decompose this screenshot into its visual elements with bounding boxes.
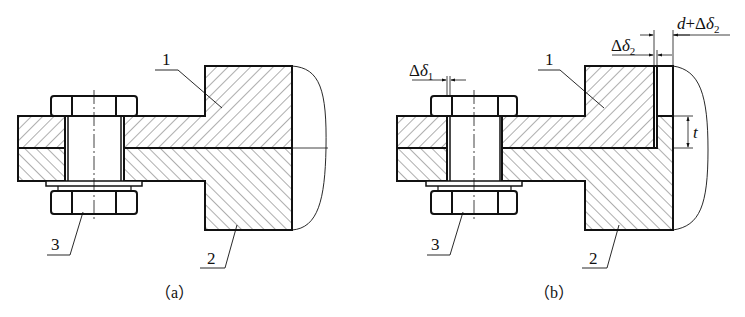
panel-a: 1 3 2 （a） (18, 50, 328, 301)
part-2-section (18, 148, 292, 230)
svg-text:t: t (693, 123, 699, 142)
label-part-3: 3 (431, 235, 440, 254)
caption-b: （b） (534, 284, 574, 301)
panel-b: Δδ1 Δδ2 d+Δδ2 t 1 3 (397, 14, 730, 301)
label-part-1: 1 (162, 50, 171, 69)
dimension-delta1: Δδ1 (409, 61, 466, 96)
label-part-1: 1 (545, 50, 554, 69)
dimension-d-plus-delta2: d+Δδ2 (640, 14, 730, 66)
label-part-2: 2 (589, 249, 598, 268)
label-part-2: 2 (207, 249, 216, 268)
svg-text:Δδ1: Δδ1 (409, 61, 433, 82)
caption-a: （a） (155, 284, 194, 301)
leader-2 (200, 225, 237, 268)
leader-2 (582, 225, 619, 268)
svg-text:d+Δδ2: d+Δδ2 (677, 14, 719, 35)
label-part-3: 3 (51, 235, 60, 254)
dimension-t: t (673, 116, 699, 148)
bolted-joint-diagram: 1 3 2 （a） (0, 0, 745, 317)
svg-text:Δδ2: Δδ2 (611, 36, 635, 57)
